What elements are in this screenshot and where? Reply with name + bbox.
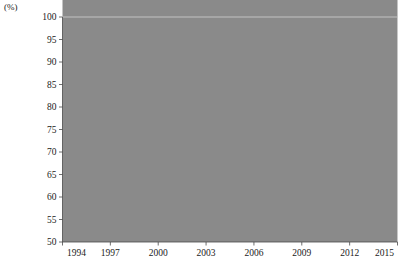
y-tick-label: 85 xyxy=(47,80,57,90)
x-tick-label: 2000 xyxy=(149,248,168,258)
y-tick-label: 100 xyxy=(42,12,57,22)
x-tick-label: 2006 xyxy=(244,248,263,258)
y-tick-label: 90 xyxy=(47,57,57,67)
x-tick-label: 2003 xyxy=(197,248,216,258)
y-tick-label: 70 xyxy=(47,147,57,157)
y-tick-label: 80 xyxy=(47,102,57,112)
y-axis: 50556065707580859095100 xyxy=(42,12,62,247)
x-tick-label: 2009 xyxy=(292,248,311,258)
x-axis: 19941997200020032006200920122015 xyxy=(63,242,398,258)
x-tick-label: 2015 xyxy=(375,248,394,258)
x-tick-label: 1994 xyxy=(67,248,86,258)
y-tick-label: 95 xyxy=(47,35,57,45)
x-tick-label: 1997 xyxy=(101,248,120,258)
area-series-group xyxy=(63,0,398,242)
x-tick-label: 2012 xyxy=(340,248,359,258)
area-band-series-1-dark-gray xyxy=(63,0,398,242)
y-tick-label: 65 xyxy=(47,170,57,180)
y-tick-label: 55 xyxy=(47,215,57,225)
chart-container: 50556065707580859095100 1994199720002003… xyxy=(0,0,413,277)
stacked-area-chart: 50556065707580859095100 1994199720002003… xyxy=(0,0,413,277)
y-tick-label: 75 xyxy=(47,125,57,135)
y-tick-label: 60 xyxy=(47,192,57,202)
y-tick-label: 50 xyxy=(47,237,57,247)
y-axis-unit-label: (%) xyxy=(4,2,18,12)
